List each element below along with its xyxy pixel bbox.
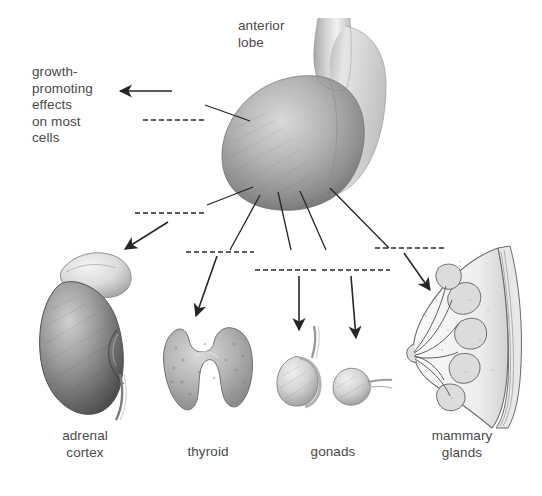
label-adrenal-cortex: adrenal cortex xyxy=(40,428,130,461)
arrow-to-mammary xyxy=(404,253,430,290)
label-gonads: gonads xyxy=(288,444,378,461)
arrow-to-thyroid xyxy=(196,256,217,316)
leader-thyroid xyxy=(230,195,260,250)
adrenal-gland-kidney xyxy=(40,253,131,420)
mammary-gland-cross-section xyxy=(407,246,522,428)
arrow-to-ovary xyxy=(351,276,356,338)
label-growth-promoting-effects: growth- promoting effects on most cells xyxy=(32,64,93,147)
arrow-to-adrenal xyxy=(125,222,168,249)
leader-mammary xyxy=(330,188,389,248)
label-anterior-lobe: anterior lobe xyxy=(238,18,285,51)
gonads-testis-ovary xyxy=(277,326,392,407)
label-mammary-glands: mammary glands xyxy=(412,428,512,461)
thyroid-gland xyxy=(164,328,253,410)
label-thyroid: thyroid xyxy=(163,444,253,461)
figure-canvas: anterior lobe growth- promoting effects … xyxy=(0,0,542,496)
